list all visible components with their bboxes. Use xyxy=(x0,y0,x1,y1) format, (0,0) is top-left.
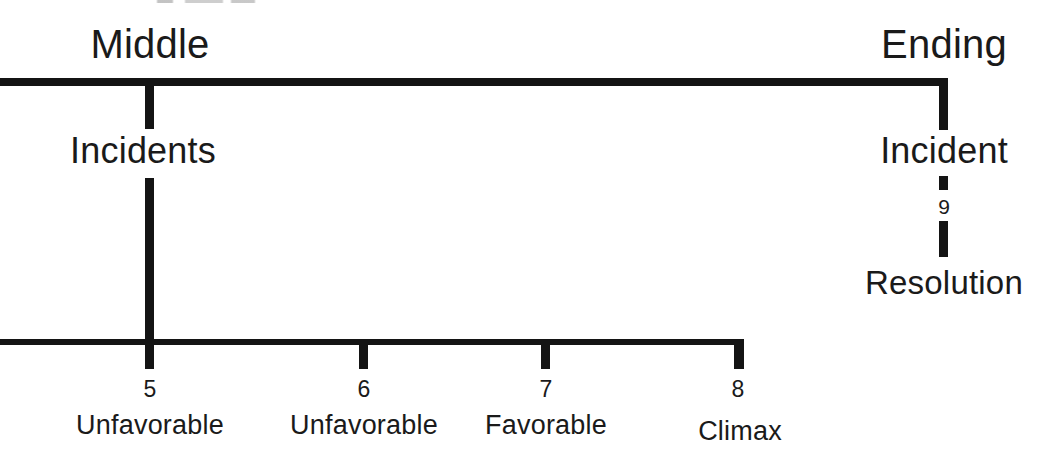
stage-label-ending: Ending xyxy=(881,24,1007,64)
ending-branch-label: Incident xyxy=(880,133,1008,169)
ending-branch-stem-tick xyxy=(939,176,948,190)
axis-tick-number-5: 5 xyxy=(144,378,157,401)
axis-tick-mark-7 xyxy=(541,341,550,369)
axis-tick-number-6: 6 xyxy=(358,378,371,401)
baseline-axis-line xyxy=(0,339,744,345)
resolution-label: Resolution xyxy=(865,266,1023,299)
middle-branch-label: Incidents xyxy=(70,133,216,169)
axis-tick-label-5: Unfavorable xyxy=(76,412,224,439)
figure-canvas: Middle Ending Incidents Incident 9 Resol… xyxy=(0,0,1047,464)
ending-branch-stem-upper xyxy=(939,78,948,130)
middle-branch-stem-upper xyxy=(145,84,154,129)
ending-branch-stem-lower xyxy=(939,221,948,257)
axis-tick-mark-5 xyxy=(145,339,154,369)
ending-branch-number: 9 xyxy=(938,196,950,217)
axis-tick-number-8: 8 xyxy=(732,378,745,401)
stage-label-middle: Middle xyxy=(90,24,209,64)
upper-spine-line xyxy=(0,78,948,86)
axis-tick-label-6: Unfavorable xyxy=(290,412,438,439)
middle-branch-stem-lower xyxy=(145,178,154,344)
axis-tick-mark-6 xyxy=(359,341,368,369)
axis-tick-mark-8 xyxy=(734,339,744,369)
cropped-title-remnant xyxy=(118,0,268,3)
axis-tick-number-7: 7 xyxy=(540,378,553,401)
axis-tick-label-7: Favorable xyxy=(485,412,607,439)
axis-tick-label-8: Climax xyxy=(698,418,782,445)
